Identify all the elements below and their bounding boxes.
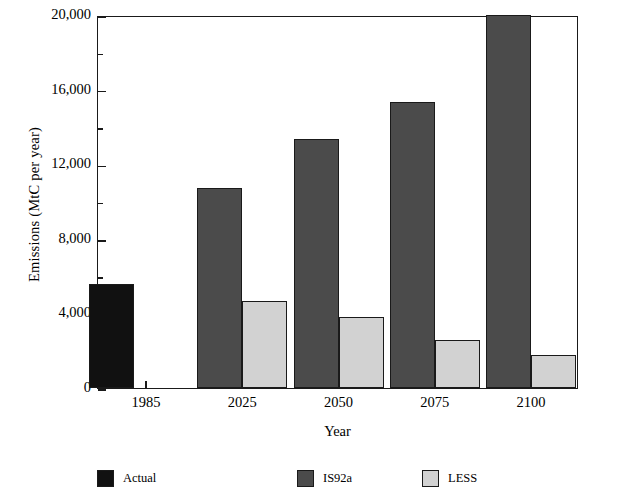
y-tick-mark: [98, 91, 106, 92]
legend-swatch-actual: [97, 470, 114, 487]
x-tick-label: 2100: [481, 394, 581, 411]
y-tick-label: 16,000: [1, 81, 91, 98]
y-tick-label: 8,000: [1, 230, 91, 247]
x-axis-title: Year: [97, 423, 578, 440]
x-tick-label: 2075: [385, 394, 485, 411]
y-tick-mark: [98, 203, 103, 204]
legend-item-actual[interactable]: Actual: [97, 470, 156, 487]
y-tick-mark: [98, 277, 103, 278]
legend-label: IS92a: [323, 472, 352, 485]
y-tick-mark: [98, 240, 106, 241]
x-tick-label: 1985: [96, 394, 196, 411]
legend-item-less[interactable]: LESS: [422, 470, 477, 487]
bar-actual-1985: [89, 284, 134, 388]
bar-less-2100: [531, 355, 576, 388]
chart-legend: ActualIS92aLESS: [97, 470, 437, 492]
bar-less-2025: [242, 301, 287, 388]
emissions-bar-chart: Emissions (MtC per year) 04,0008,00012,0…: [0, 0, 621, 503]
y-tick-mark: [98, 389, 106, 390]
y-tick-mark: [98, 166, 106, 167]
y-tick-label: 20,000: [1, 6, 91, 23]
legend-swatch-less: [422, 470, 439, 487]
bar-is92a-2075: [390, 102, 435, 388]
y-tick-label: 12,000: [1, 155, 91, 172]
x-tick-mark: [145, 381, 146, 388]
x-tick-label: 2050: [289, 394, 389, 411]
legend-label: LESS: [448, 472, 477, 485]
y-tick-mark: [98, 54, 103, 55]
bar-is92a-2025: [197, 188, 242, 388]
bar-less-2075: [435, 340, 480, 388]
x-tick-label: 2025: [192, 394, 292, 411]
legend-label: Actual: [123, 472, 156, 485]
plot-area: 04,0008,00012,00016,00020,000 1985202520…: [97, 16, 578, 389]
bar-less-2050: [339, 317, 384, 388]
y-axis-title: Emissions (MtC per year): [26, 85, 43, 325]
y-tick-mark: [98, 16, 106, 17]
legend-swatch-is92a: [297, 470, 314, 487]
bar-is92a-2100: [486, 15, 531, 388]
bar-is92a-2050: [294, 139, 339, 388]
legend-item-is92a[interactable]: IS92a: [297, 470, 352, 487]
y-tick-mark: [98, 128, 103, 129]
y-tick-label: 4,000: [1, 304, 91, 321]
y-tick-label: 0: [1, 379, 91, 396]
